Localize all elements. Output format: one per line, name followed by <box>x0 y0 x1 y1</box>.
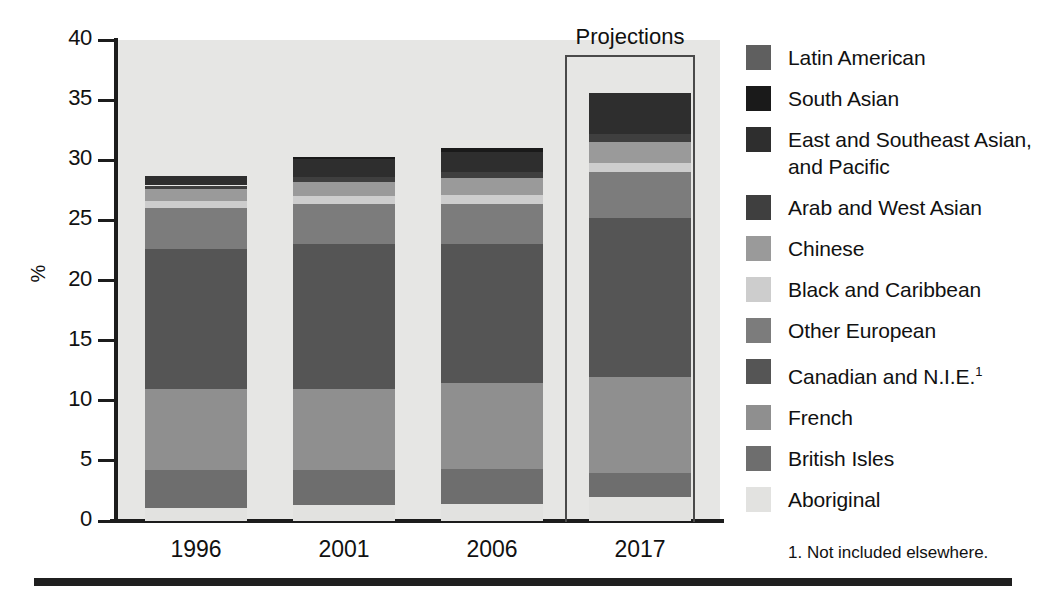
legend-swatch-icon <box>746 236 771 261</box>
y-tick-label: 25 <box>40 205 92 231</box>
bar-segment[interactable] <box>293 196 395 203</box>
legend-item-label: Aboriginal <box>788 486 880 513</box>
legend-item-label: Arab and West Asian <box>788 194 982 221</box>
x-tick-label-2017: 2017 <box>566 536 714 563</box>
legend-item-label: Latin American <box>788 44 926 71</box>
legend-item[interactable]: East and Southeast Asian,and Pacific <box>746 126 1036 180</box>
legend-item-label: Canadian and N.I.E.1 <box>788 358 982 390</box>
chart-figure: 4035302520151050 % 1996200120062017 Proj… <box>0 0 1044 597</box>
bar-segment[interactable] <box>441 204 543 245</box>
legend-item[interactable]: British Isles <box>746 445 1036 472</box>
bar-segment[interactable] <box>441 178 543 195</box>
legend-swatch-icon <box>746 127 771 152</box>
legend-item[interactable]: French <box>746 404 1036 431</box>
y-tick-mark <box>98 339 115 342</box>
legend-footnote: 1. Not included elsewhere. <box>788 543 988 563</box>
y-tick-mark <box>98 520 115 523</box>
y-tick-label: 40 <box>40 25 92 51</box>
bar-segment[interactable] <box>145 389 247 471</box>
projections-label: Projections <box>565 24 695 50</box>
legend-item-label: Other European <box>788 317 936 344</box>
bar-segment[interactable] <box>145 189 247 201</box>
bar-segment[interactable] <box>441 244 543 382</box>
x-tick-label-2001: 2001 <box>270 536 418 563</box>
bar-segment[interactable] <box>145 208 247 249</box>
y-tick-label: 15 <box>40 326 92 352</box>
bar-segment[interactable] <box>293 182 395 196</box>
bar-segment[interactable] <box>145 508 247 521</box>
legend-item[interactable]: Black and Caribbean <box>746 276 1036 303</box>
legend: Latin AmericanSouth AsianEast and Southe… <box>746 44 1036 527</box>
legend-item-label: South Asian <box>788 85 899 112</box>
y-tick-label: 5 <box>40 446 92 472</box>
bar-segment[interactable] <box>441 152 543 172</box>
bar-2001[interactable] <box>293 40 395 521</box>
legend-swatch-icon <box>746 487 771 512</box>
y-tick-mark <box>98 459 115 462</box>
y-tick-mark <box>98 159 115 162</box>
legend-item[interactable]: Other European <box>746 317 1036 344</box>
y-tick-label: 0 <box>40 506 92 532</box>
y-axis-title: % <box>27 265 50 283</box>
x-tick-label-1996: 1996 <box>122 536 270 563</box>
legend-swatch-icon <box>746 86 771 111</box>
bar-1996[interactable] <box>145 40 247 521</box>
legend-swatch-icon <box>746 195 771 220</box>
bar-segment[interactable] <box>441 195 543 203</box>
legend-item[interactable]: South Asian <box>746 85 1036 112</box>
bar-segment[interactable] <box>441 383 543 470</box>
legend-item[interactable]: Arab and West Asian <box>746 194 1036 221</box>
legend-swatch-icon <box>746 359 771 384</box>
bar-segment[interactable] <box>293 505 395 521</box>
legend-item-label: British Isles <box>788 445 894 472</box>
legend-item[interactable]: Aboriginal <box>746 486 1036 513</box>
legend-swatch-icon <box>746 318 771 343</box>
bar-segment[interactable] <box>145 186 247 190</box>
legend-item-label: Black and Caribbean <box>788 276 981 303</box>
bar-segment[interactable] <box>145 176 247 186</box>
bar-segment[interactable] <box>441 172 543 178</box>
y-tick-mark <box>98 279 115 282</box>
y-tick-mark <box>98 399 115 402</box>
legend-swatch-icon <box>746 277 771 302</box>
bar-segment[interactable] <box>441 504 543 521</box>
legend-item-label: Chinese <box>788 235 864 262</box>
bar-segment[interactable] <box>293 204 395 245</box>
bar-segment[interactable] <box>293 244 395 388</box>
y-tick-label: 35 <box>40 85 92 111</box>
legend-item-label: French <box>788 404 853 431</box>
legend-item[interactable]: Latin American <box>746 44 1036 71</box>
bar-segment[interactable] <box>293 177 395 182</box>
y-tick-mark <box>98 99 115 102</box>
legend-swatch-icon <box>746 446 771 471</box>
x-tick-label-2006: 2006 <box>418 536 566 563</box>
legend-swatch-icon <box>746 45 771 70</box>
bar-segment[interactable] <box>145 201 247 208</box>
bar-segment[interactable] <box>145 249 247 388</box>
bar-2006[interactable] <box>441 40 543 521</box>
y-axis-ticks: 4035302520151050 <box>0 0 118 597</box>
y-tick-mark <box>98 39 115 42</box>
legend-swatch-icon <box>746 405 771 430</box>
legend-item[interactable]: Canadian and N.I.E.1 <box>746 358 1036 390</box>
bar-segment[interactable] <box>293 157 395 159</box>
bottom-rule <box>34 578 1012 586</box>
legend-item[interactable]: Chinese <box>746 235 1036 262</box>
projections-bracket <box>565 55 695 522</box>
bar-segment[interactable] <box>293 389 395 471</box>
y-tick-label: 30 <box>40 145 92 171</box>
y-tick-mark <box>98 219 115 222</box>
bar-segment[interactable] <box>293 159 395 177</box>
bar-segment[interactable] <box>441 148 543 152</box>
bar-segment[interactable] <box>293 470 395 505</box>
legend-item-label: East and Southeast Asian,and Pacific <box>788 126 1032 180</box>
y-tick-label: 10 <box>40 386 92 412</box>
bar-segment[interactable] <box>441 469 543 504</box>
bar-segment[interactable] <box>145 470 247 507</box>
